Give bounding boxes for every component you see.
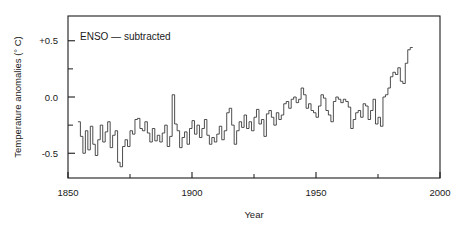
y-axis-title: Temperature anomalies (° C) — [12, 36, 23, 158]
y-tick-label: +0.5 — [39, 35, 58, 46]
temperature-anomaly-line-chart: 1850190019502000 -0.50.0+0.5 ENSO — subt… — [0, 0, 462, 236]
y-axis-ticks — [68, 41, 75, 154]
series-path-0 — [78, 48, 413, 167]
data-series-group — [78, 48, 413, 167]
chart-figure: 1850190019502000 -0.50.0+0.5 ENSO — subt… — [0, 0, 462, 236]
y-tick-label: -0.5 — [42, 148, 58, 159]
x-tick-label: 2000 — [429, 187, 450, 198]
x-axis-tick-labels: 1850190019502000 — [57, 187, 450, 198]
x-axis-ticks — [68, 172, 440, 178]
y-axis-tick-labels: -0.50.0+0.5 — [39, 35, 58, 159]
x-axis-title: Year — [244, 209, 263, 220]
x-tick-label: 1950 — [305, 187, 326, 198]
x-tick-label: 1900 — [181, 187, 202, 198]
x-tick-label: 1850 — [57, 187, 78, 198]
enso-subtracted-annotation: ENSO — subtracted — [80, 31, 171, 42]
y-tick-label: 0.0 — [45, 92, 58, 103]
